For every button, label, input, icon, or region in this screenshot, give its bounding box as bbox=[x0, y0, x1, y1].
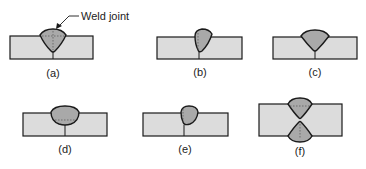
leader-line bbox=[59, 16, 79, 26]
panel-f: (f) bbox=[259, 98, 342, 157]
callout-label: Weld joint bbox=[81, 10, 129, 22]
weld-joints-diagram: Weld joint (a) (b) (c) (d) (e) bbox=[0, 0, 366, 169]
panel-label-b: (b) bbox=[193, 66, 206, 78]
panel-label-f: (f) bbox=[295, 145, 305, 157]
panel-label-c: (c) bbox=[309, 66, 322, 78]
panel-e: (e) bbox=[143, 106, 228, 155]
panel-label-a: (a) bbox=[46, 67, 59, 79]
panel-a: Weld joint (a) bbox=[10, 10, 129, 79]
panel-c: (c) bbox=[273, 30, 357, 78]
panel-label-d: (d) bbox=[58, 143, 71, 155]
panel-d: (d) bbox=[23, 106, 107, 155]
panel-b: (b) bbox=[157, 29, 242, 78]
panel-label-e: (e) bbox=[178, 143, 191, 155]
weld-bead-d bbox=[51, 106, 79, 125]
